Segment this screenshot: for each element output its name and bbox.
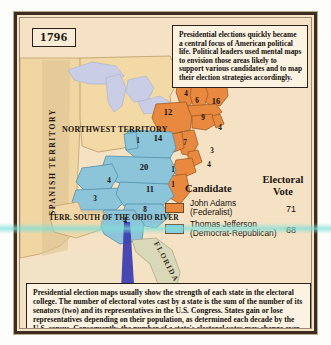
legend-name-jefferson: Thomas Jefferson (Democrat-Republican) — [190, 220, 282, 239]
electoral-number-massachusetts: 16 — [209, 98, 223, 106]
note-box: Presidential elections quickly became a … — [172, 25, 308, 88]
electoral-number-maryland-a: 4 — [202, 161, 216, 169]
label-terr-south-ohio-text: TERR. SOUTH OF THE OHIO RIVER — [49, 213, 179, 222]
electoral-number-rhode-island: 4 — [213, 124, 227, 132]
electoral-number-connecticut: 9 — [196, 114, 210, 122]
electoral-number-virginia: 20 — [137, 164, 151, 172]
electoral-number-georgia: 4 — [118, 217, 132, 225]
legend-votes-jefferson: 68 — [277, 225, 305, 235]
label-spanish-territory: SPANISH TERRITORY — [49, 129, 57, 215]
caption-box: Presidential election maps usually show … — [26, 283, 311, 329]
electoral-number-tennessee: 3 — [88, 195, 102, 203]
label-northwest-territory: NORTHWEST TERRITORY — [62, 126, 136, 134]
legend-party-adams: (Federalist) — [190, 207, 232, 217]
electoral-number-south-carolina: 8 — [138, 206, 152, 214]
legend-swatch-adams — [165, 203, 184, 213]
legend-swatch-jefferson — [165, 224, 184, 234]
legend-header: Candidate Electoral Vote — [163, 174, 309, 200]
legend-header-vote: Vote — [273, 186, 293, 197]
legend-header-electoral: Electoral — [263, 174, 304, 185]
label-northwest-territory-text: NORTHWEST TERRITORY — [62, 125, 168, 134]
legend-header-candidate: Candidate — [185, 183, 232, 194]
map-plate-inner: SPANISH TERRITORY NORTHWEST TERRITORY TE… — [19, 17, 312, 329]
label-terr-south-ohio: TERR. SOUTH OF THE OHIO RIVER — [49, 214, 121, 222]
electoral-number-new-york: 12 — [161, 109, 175, 117]
legend: Candidate Electoral Vote John Adams (Fed… — [163, 174, 309, 242]
map-plate: SPANISH TERRITORY NORTHWEST TERRITORY TE… — [14, 12, 317, 334]
electoral-number-new-jersey: 7 — [178, 139, 192, 147]
legend-header-electoral-vote: Electoral Vote — [259, 174, 307, 197]
legend-name-adams: John Adams (Federalist) — [190, 199, 282, 218]
legend-votes-adams: 71 — [277, 204, 305, 214]
election-map-figure: SPANISH TERRITORY NORTHWEST TERRITORY TE… — [0, 0, 331, 345]
legend-row-adams: John Adams (Federalist) 71 — [163, 200, 309, 221]
electoral-number-pennsylvania: 14 — [151, 135, 165, 143]
legend-row-jefferson: Thomas Jefferson (Democrat-Republican) 6… — [163, 221, 309, 242]
year-badge: 1796 — [32, 28, 76, 47]
electoral-number-north-carolina: 11 — [143, 186, 157, 194]
electoral-number-vermont-west: 1 — [131, 137, 145, 145]
electoral-number-delaware: 3 — [205, 147, 219, 155]
electoral-number-new-hampshire: 6 — [190, 97, 204, 105]
legend-party-jefferson: (Democrat-Republican) — [190, 228, 277, 238]
electoral-number-kentucky: 4 — [102, 177, 116, 185]
